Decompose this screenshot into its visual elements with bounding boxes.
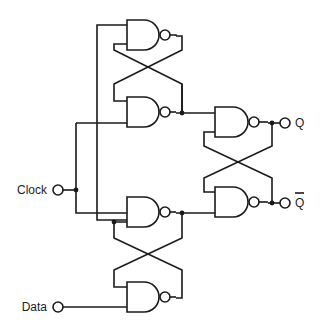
junction-dot-qbar xyxy=(270,201,275,206)
qbar-terminal: Q xyxy=(280,193,304,210)
data-label: Data xyxy=(22,300,48,314)
junction-dot-gate3-out xyxy=(180,211,185,216)
inverter-bubble-icon xyxy=(160,207,170,217)
output-terminal-icon xyxy=(280,118,290,128)
inverter-bubble-icon xyxy=(249,117,259,127)
wire-gate2-out-to-gate1 xyxy=(114,44,182,103)
nand-gate-5 xyxy=(215,107,259,137)
q-terminal: Q xyxy=(280,116,304,130)
nand-gate-2 xyxy=(127,97,170,127)
wires xyxy=(63,25,280,307)
nand-gate-4 xyxy=(127,282,170,312)
nand-gate-6 xyxy=(215,187,259,217)
data-terminal: Data xyxy=(22,300,63,314)
nand-gate-3 xyxy=(127,197,170,227)
input-terminal-icon xyxy=(53,302,63,312)
output-terminal-icon xyxy=(280,198,290,208)
inverter-bubble-icon xyxy=(160,292,170,302)
wire-clock-bus xyxy=(76,123,127,213)
qbar-label: Q xyxy=(295,196,304,210)
d-flip-flop-diagram: Clock Data Q Q xyxy=(0,0,324,326)
clock-label: Clock xyxy=(17,183,48,197)
junction-dot-gate2-out xyxy=(180,111,185,116)
input-terminal-icon xyxy=(53,185,63,195)
q-label: Q xyxy=(295,116,304,130)
junction-dot-clock xyxy=(74,188,79,193)
inverter-bubble-icon xyxy=(249,197,259,207)
junction-dot-q xyxy=(270,121,275,126)
junction-dot xyxy=(112,220,117,225)
inverter-bubble-icon xyxy=(160,30,170,40)
inverter-bubble-icon xyxy=(160,107,170,117)
clock-terminal: Clock xyxy=(17,183,63,197)
nand-gate-1 xyxy=(127,20,170,50)
